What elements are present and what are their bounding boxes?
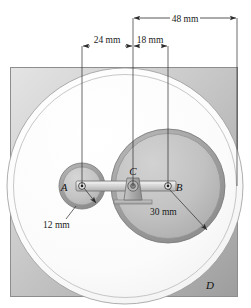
dim-18mm: 18 mm [134,35,167,46]
point-label-C: C [129,165,137,177]
dim-24mm-label: 24 mm [94,35,121,45]
figure-canvas: 48 mm 24 mm 18 mm 12 mm 30 mm A [0,0,251,308]
radius-12mm-label: 12 mm [43,220,70,230]
point-label-A: A [60,181,68,193]
radius-30mm-label: 30 mm [150,207,177,217]
dim-24mm: 24 mm [83,35,132,46]
point-label-B: B [176,181,183,193]
dim-48mm-label: 48 mm [172,14,199,24]
dim-18mm-label: 18 mm [137,35,164,45]
point-label-D: D [205,279,214,291]
gear-mechanism-figure: 48 mm 24 mm 18 mm 12 mm 30 mm A [0,0,251,308]
dim-48mm: 48 mm [134,14,236,24]
